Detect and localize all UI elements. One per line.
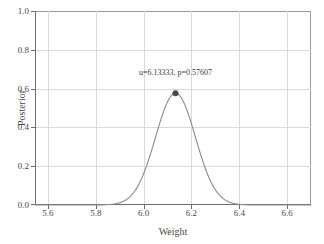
posterior-mode-marker: [172, 90, 178, 96]
x-tick-label: 6.2: [186, 208, 197, 218]
posterior-curve-svg: [35, 11, 311, 205]
x-tick-label: 5.6: [42, 208, 53, 218]
x-axis-label: Weight: [159, 226, 188, 237]
y-tick-label: 0.8: [18, 45, 29, 55]
mode-annotation-label: u=6.13333, p=0.57607: [139, 68, 212, 77]
y-tick-label: 0.2: [18, 161, 29, 171]
x-tick-label: 6.4: [234, 208, 245, 218]
y-tick-label: 1.0: [18, 6, 29, 16]
x-tick-label: 6.0: [138, 208, 149, 218]
plot-area: [35, 11, 311, 205]
x-tick-label: 6.6: [281, 208, 292, 218]
posterior-curve: [35, 93, 311, 205]
x-tick-label: 5.8: [90, 208, 101, 218]
y-tick-label: 0.0: [18, 200, 29, 210]
y-axis-label: Posterior: [16, 90, 27, 126]
posterior-distribution-chart: 5.65.86.06.26.46.6 0.00.20.40.60.81.0 u=…: [0, 0, 324, 244]
